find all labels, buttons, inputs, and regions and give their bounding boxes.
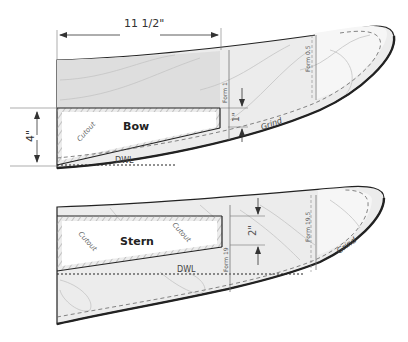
stern-waterline-label: DWL	[177, 265, 196, 274]
stern-piece	[57, 186, 384, 324]
bow-form-b-label: Form 0.5	[304, 45, 311, 72]
stern-label: Stern	[120, 235, 154, 248]
boat-block-diagram: Bow Cutout DWL Grind Form 1 Form 0.5 1" …	[0, 0, 408, 342]
bow-offset-label: 1"	[231, 112, 241, 122]
bow-label: Bow	[123, 120, 149, 133]
stern-form-b-label: Form 19.5	[304, 211, 311, 242]
bow-waterline-label: DWL	[115, 156, 134, 165]
stern-offset-label: 2"	[247, 225, 258, 236]
width-dimension-label: 11 1/2"	[124, 17, 164, 30]
height-dimension-label: 4"	[24, 130, 37, 142]
bow-form-a-label: Form 1	[221, 82, 228, 103]
stern-form-a-label: Form 19	[222, 247, 229, 272]
